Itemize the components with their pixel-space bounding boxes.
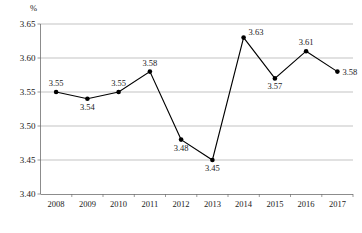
y-tick-label: 3.60 [20, 53, 36, 63]
data-point-value-label: 3.57 [267, 81, 282, 91]
data-point-value-label: 3.63 [249, 27, 264, 37]
y-tick-label: 3.55 [20, 87, 36, 97]
data-point-value-label: 3.55 [49, 78, 64, 88]
data-point-value-label: 3.58 [142, 58, 157, 68]
x-tick-label: 2017 [329, 199, 346, 209]
y-axis-unit-label: % [30, 3, 37, 13]
x-tick-label: 2015 [266, 199, 283, 209]
data-point-marker [54, 90, 59, 95]
figure-caption [0, 224, 362, 233]
data-point-marker [148, 69, 153, 74]
data-point-marker [85, 97, 90, 102]
data-point-marker [241, 35, 246, 40]
data-point-value-label: 3.55 [111, 78, 126, 88]
y-tick-label: 3.50 [20, 121, 36, 131]
x-tick-label: 2014 [235, 199, 253, 209]
x-tick-label: 2008 [48, 199, 65, 209]
data-point-marker [210, 158, 215, 163]
data-point-marker [179, 137, 184, 142]
data-point-value-label: 3.58 [342, 67, 357, 77]
y-tick-label: 3.45 [20, 155, 36, 165]
x-tick-label: 2013 [204, 199, 221, 209]
x-tick-label: 2016 [298, 199, 315, 209]
y-tick-label: 3.40 [20, 189, 36, 199]
y-tick-label: 3.65 [20, 19, 36, 29]
x-tick-label: 2009 [79, 199, 96, 209]
series-line [56, 38, 337, 160]
data-point-marker [304, 49, 309, 54]
chart-svg: % 3.653.603.553.503.453.40 2008200920102… [0, 0, 362, 233]
data-point-marker [335, 69, 340, 74]
data-point-marker [116, 90, 121, 95]
data-point-marker [273, 76, 278, 81]
x-tick-label: 2011 [142, 199, 159, 209]
data-point-value-label: 3.48 [174, 143, 189, 153]
x-tick-label: 2010 [110, 199, 127, 209]
data-point-value-label: 3.45 [205, 163, 220, 173]
data-point-labels: 3.553.543.553.583.483.453.633.573.613.58 [49, 27, 358, 173]
data-point-value-label: 3.54 [80, 102, 96, 112]
line-chart: % 3.653.603.553.503.453.40 2008200920102… [0, 0, 362, 233]
y-axis-ticks: 3.653.603.553.503.453.40 [20, 19, 41, 199]
data-point-value-label: 3.61 [299, 37, 314, 47]
x-axis-labels: 2008200920102011201220132014201520162017 [48, 199, 346, 209]
x-tick-label: 2012 [173, 199, 190, 209]
series-markers [54, 35, 340, 162]
